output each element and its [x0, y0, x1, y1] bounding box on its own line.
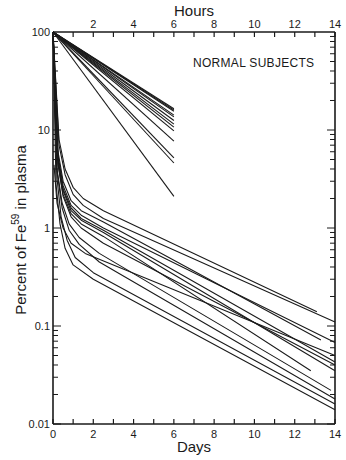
subject-d3-line [53, 32, 321, 340]
y-tick-label: 0.01 [29, 418, 50, 430]
x-tick-label: 2 [90, 428, 96, 440]
x2-tick-label: 14 [329, 18, 341, 30]
subject-d7-line [53, 32, 311, 371]
x2-tick-label: 2 [90, 18, 96, 30]
subject-d13-line [54, 165, 335, 356]
subject-d10-line [53, 32, 335, 399]
subject-d8-line [53, 32, 335, 365]
fe59-clearance-chart: 0246810121424681012141001010.10.01 Hours… [0, 0, 346, 460]
x-tick-label: 14 [329, 428, 341, 440]
x-tick-label: 4 [131, 428, 137, 440]
bottom-axis-title: Days [177, 438, 211, 455]
y-axis-title: Percent of Fe59 in plasma [10, 145, 29, 315]
x2-tick-label: 10 [248, 18, 260, 30]
y-axis-title-post: in plasma [12, 145, 29, 214]
x-tick-label: 8 [211, 428, 217, 440]
y-tick-label: 100 [32, 26, 50, 38]
y-axis-title-pre: Percent of Fe [12, 225, 29, 315]
x2-tick-label: 12 [289, 18, 301, 30]
subject-d5-line [53, 32, 335, 362]
x2-tick-label: 4 [131, 18, 137, 30]
y-tick-label: 10 [38, 124, 50, 136]
subject-h9-line [53, 32, 174, 131]
subject-h13-line [53, 32, 174, 196]
subject-d6-line [53, 32, 335, 371]
x-tick-label: 10 [248, 428, 260, 440]
y-tick-label: 0.1 [35, 320, 50, 332]
x-tick-label: 12 [289, 428, 301, 440]
top-axis-title: Hours [174, 2, 214, 19]
y-tick-label: 1 [44, 222, 50, 234]
subject-h10-line [53, 32, 174, 141]
x2-tick-label: 8 [211, 18, 217, 30]
hours-series-lines [53, 32, 174, 196]
x-tick-label: 0 [50, 428, 56, 440]
y-axis-title-sup: 59 [10, 213, 21, 225]
axis-ticks: 0246810121424681012141001010.10.01 [29, 18, 342, 440]
annotation-normal-subjects: NORMAL SUBJECTS [193, 56, 314, 70]
x2-tick-label: 6 [171, 18, 177, 30]
